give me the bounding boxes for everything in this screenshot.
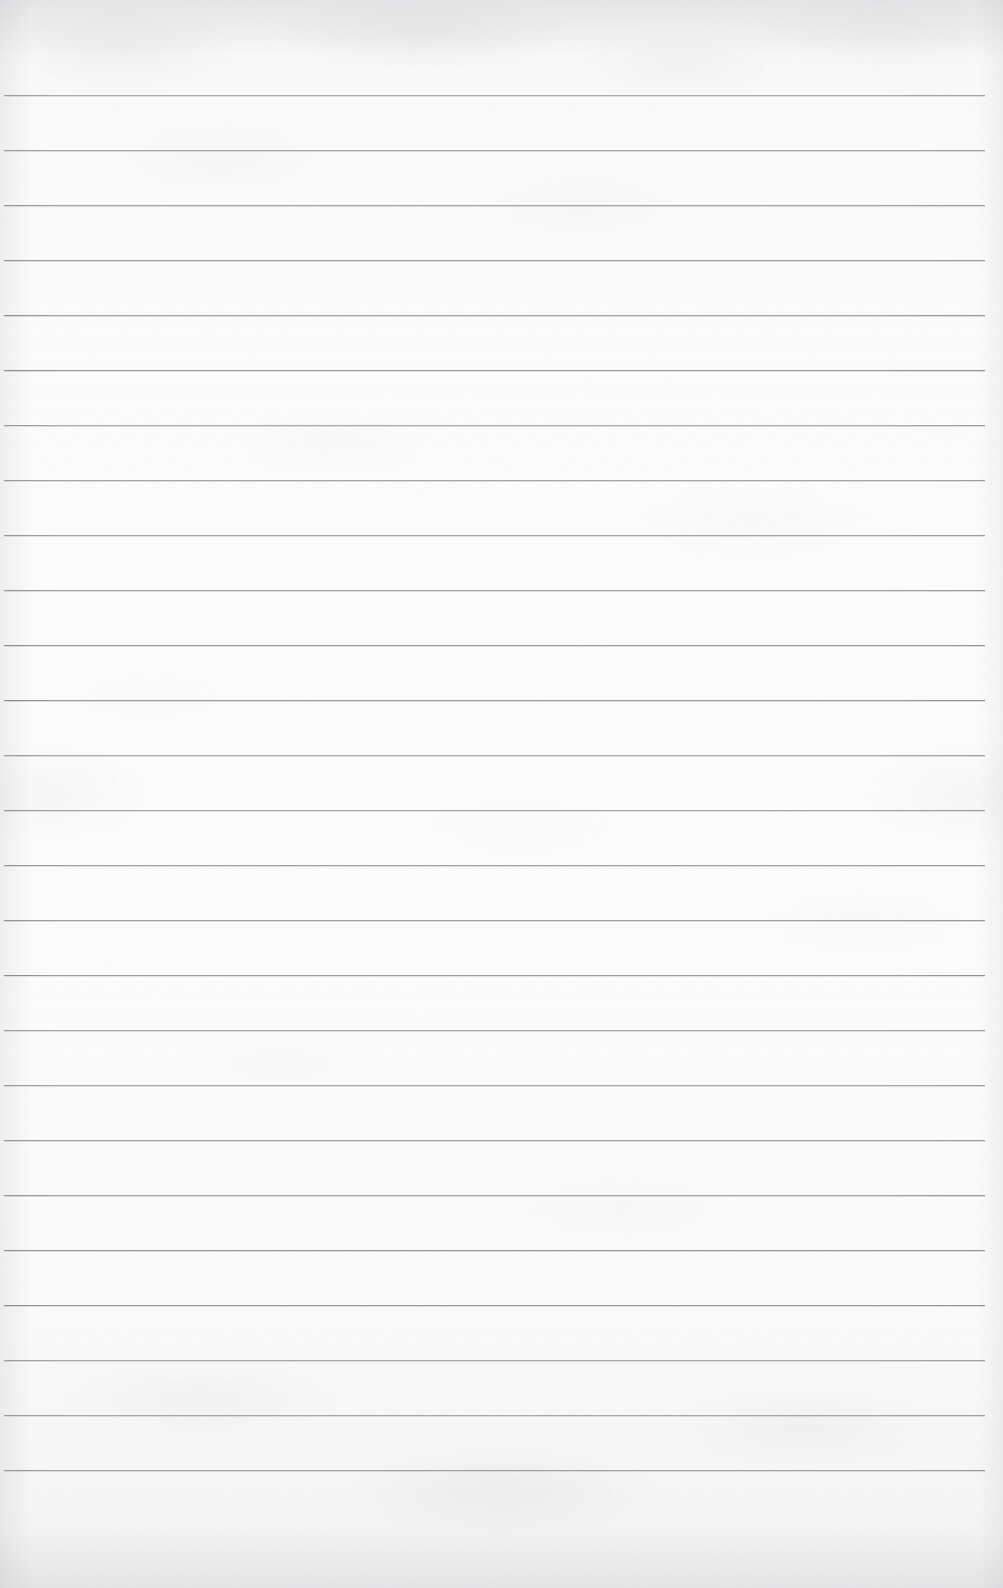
- rule-line-shadow: [4, 151, 985, 152]
- rule-line: [4, 700, 985, 701]
- rule-line-shadow: [4, 591, 985, 592]
- rule-line-shadow: [4, 701, 985, 702]
- rule-line: [4, 150, 985, 151]
- rule-line-shadow: [4, 756, 985, 757]
- rule-line: [4, 535, 985, 536]
- rule-line-shadow: [4, 1306, 985, 1307]
- rule-line-shadow: [4, 1196, 985, 1197]
- rule-line: [4, 975, 985, 976]
- rule-line: [4, 865, 985, 866]
- rule-line-shadow: [4, 316, 985, 317]
- rule-line: [4, 95, 985, 96]
- rule-line: [4, 1415, 985, 1416]
- rule-line: [4, 645, 985, 646]
- ruled-lines-layer: [0, 0, 1003, 1588]
- rule-line: [4, 920, 985, 921]
- rule-line-shadow: [4, 811, 985, 812]
- rule-line: [4, 1030, 985, 1031]
- rule-line-shadow: [4, 866, 985, 867]
- rule-line-shadow: [4, 1361, 985, 1362]
- rule-line-shadow: [4, 261, 985, 262]
- rule-line: [4, 480, 985, 481]
- rule-line-shadow: [4, 1086, 985, 1087]
- rule-line: [4, 1250, 985, 1251]
- rule-line: [4, 590, 985, 591]
- rule-line: [4, 260, 985, 261]
- rule-line-shadow: [4, 976, 985, 977]
- rule-line-shadow: [4, 1471, 985, 1472]
- rule-line: [4, 315, 985, 316]
- rule-line: [4, 1085, 985, 1086]
- rule-line-shadow: [4, 536, 985, 537]
- rule-line: [4, 755, 985, 756]
- rule-line: [4, 810, 985, 811]
- rule-line-shadow: [4, 1141, 985, 1142]
- rule-line-shadow: [4, 1251, 985, 1252]
- rule-line-shadow: [4, 371, 985, 372]
- lined-paper-page: [0, 0, 1003, 1588]
- rule-line-shadow: [4, 206, 985, 207]
- rule-line-shadow: [4, 96, 985, 97]
- rule-line: [4, 1305, 985, 1306]
- rule-line-shadow: [4, 921, 985, 922]
- rule-line: [4, 1140, 985, 1141]
- rule-line-shadow: [4, 1031, 985, 1032]
- rule-line-shadow: [4, 426, 985, 427]
- rule-line: [4, 425, 985, 426]
- rule-line: [4, 370, 985, 371]
- rule-line-shadow: [4, 1416, 985, 1417]
- rule-line-shadow: [4, 646, 985, 647]
- rule-line: [4, 1470, 985, 1471]
- rule-line: [4, 205, 985, 206]
- rule-line: [4, 1195, 985, 1196]
- rule-line-shadow: [4, 481, 985, 482]
- rule-line: [4, 1360, 985, 1361]
